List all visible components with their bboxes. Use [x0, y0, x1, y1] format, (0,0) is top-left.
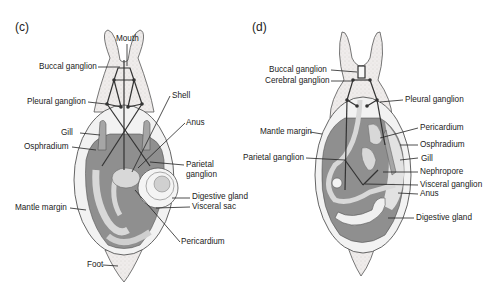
label-shell-c: Shell: [172, 92, 190, 100]
label-visceral-ganglion-d: Visceral ganglion: [420, 181, 482, 189]
label-digestive-gland-d: Digestive gland: [416, 214, 472, 222]
label-visceral-sac-c: Visceral sac: [192, 203, 236, 211]
label-mantle-margin-d: Mantle margin: [260, 128, 312, 136]
label-buccal-ganglion-d: Buccal ganglion: [269, 66, 327, 74]
label-pericardium-d: Pericardium: [420, 124, 464, 132]
label-digestive-gland-c: Digestive gland: [192, 193, 248, 201]
label-mantle-margin-c: Mantle margin: [15, 204, 67, 212]
label-parietal-ganglion-c-2: ganglion: [186, 171, 217, 179]
panel-c-label: (c): [15, 20, 29, 34]
label-pericardium-c: Pericardium: [181, 238, 225, 246]
label-osphradium-d: Osphradium: [420, 141, 465, 149]
label-cerebral-ganglion-d: Cerebral ganglion: [265, 77, 330, 85]
label-osphradium-c: Osphradium: [24, 143, 69, 151]
label-anus-c: Anus: [186, 119, 205, 127]
label-nephropore-d: Nephropore: [420, 168, 463, 176]
label-pleural-ganglion-c: Pleural ganglion: [27, 98, 86, 106]
label-pleural-ganglion-d: Pleural ganglion: [405, 96, 464, 104]
panel-d-label: (d): [252, 20, 267, 34]
label-gill-d: Gill: [421, 155, 433, 163]
diagram-canvas: [0, 0, 487, 289]
label-parietal-ganglion-c-1: Parietal: [186, 161, 214, 169]
label-foot-c: Foot: [87, 261, 103, 269]
label-buccal-ganglion-c: Buccal ganglion: [39, 63, 97, 71]
label-gill-c: Gill: [61, 129, 73, 137]
label-parietal-ganglion-d: Parietal ganglion: [243, 154, 304, 162]
label-anus-d: Anus: [420, 190, 439, 198]
label-mouth-c: Mouth: [116, 35, 139, 43]
